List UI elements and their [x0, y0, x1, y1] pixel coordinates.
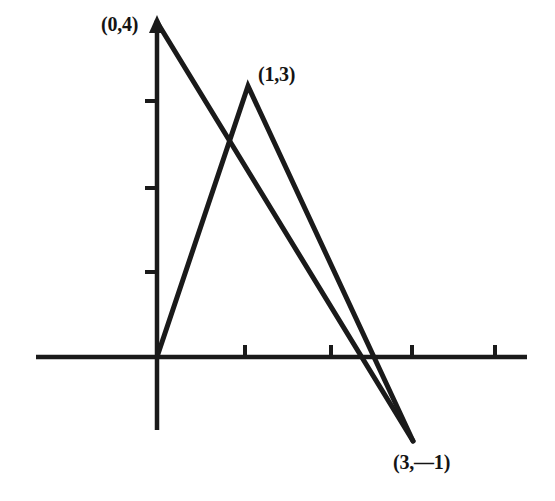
- line-segment-origin-peak-3-m1: [157, 86, 413, 441]
- point-label-0-4: (0,4): [101, 14, 138, 34]
- point-label-3-minus-1: (3,—1): [393, 452, 450, 472]
- point-label-1-3: (1,3): [258, 64, 295, 84]
- graph-figure: (0,4) (1,3) (3,—1): [0, 0, 555, 501]
